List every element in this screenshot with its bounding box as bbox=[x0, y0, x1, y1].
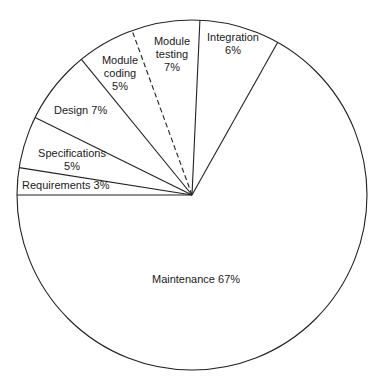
slice-label-line: Specifications bbox=[38, 147, 106, 159]
slice-label-line: Integration bbox=[207, 31, 259, 43]
slice-label-design: Design 7% bbox=[54, 104, 107, 116]
slice-label-line: 5% bbox=[64, 160, 80, 172]
slice-label-line: 5% bbox=[112, 80, 128, 92]
slice-label-line: testing bbox=[156, 48, 188, 60]
slice-label-requirements: Requirements 3% bbox=[22, 179, 110, 191]
pie-chart: Requirements 3%Specifications5%Design 7%… bbox=[0, 0, 377, 382]
slice-label-maintenance: Maintenance 67% bbox=[152, 273, 240, 285]
slice-label-line: 7% bbox=[164, 61, 180, 73]
slice-label-line: Requirements 3% bbox=[22, 179, 110, 191]
slice-label-line: Module bbox=[154, 35, 190, 47]
slice-label-line: Maintenance 67% bbox=[152, 273, 240, 285]
slice-label-line: Module bbox=[102, 54, 138, 66]
slice-label-line: Design 7% bbox=[54, 104, 107, 116]
slice-label-line: coding bbox=[104, 67, 136, 79]
slice-label-line: 6% bbox=[225, 44, 241, 56]
